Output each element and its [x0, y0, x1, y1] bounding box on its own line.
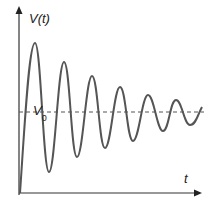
v0-label: V0 — [33, 104, 47, 121]
voltage-curve — [20, 43, 202, 193]
y-axis-label: V(t) — [29, 12, 50, 25]
y-axis-arrow-icon — [16, 6, 23, 14]
damped-oscillation-figure: V(t) V0 t — [0, 0, 212, 207]
x-axis-label: t — [184, 172, 188, 185]
plot-canvas — [0, 0, 212, 207]
x-axis-arrow-icon — [194, 190, 202, 197]
v0-label-main: V — [33, 103, 42, 118]
v0-label-subscript: 0 — [42, 113, 47, 123]
